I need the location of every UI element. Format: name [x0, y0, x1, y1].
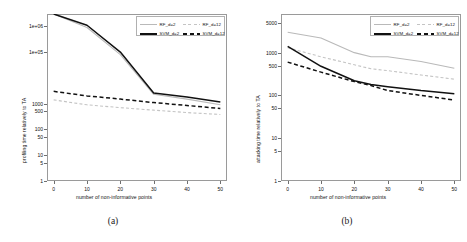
- panel-a-legend-entry-svm-d12: SVM_d=12: [183, 31, 225, 36]
- panel-b: attacking time relatively to TA number o…: [234, 0, 467, 242]
- panel-a-caption: (a): [93, 216, 133, 226]
- figure-two-panel-line-charts: profiling time relatively to TA number o…: [0, 0, 467, 242]
- panel-b-caption: (b): [327, 216, 367, 226]
- panel-b-series-layer: [234, 0, 467, 242]
- panel-b-legend-entry-rf-d2: RF_d=2: [374, 22, 410, 27]
- panel-a-legend: RF_d=2 RF_d=12 SVM_d=2 SVM_d=12: [136, 16, 225, 36]
- series-line-rf-d-12: [54, 100, 221, 115]
- series-line-svm-d-12: [54, 91, 221, 108]
- series-line-svm-d-2: [288, 46, 455, 93]
- panel-b-legend-entry-svm-d12: SVM_d=12: [417, 31, 459, 36]
- legend-label: SVM_d=2: [394, 31, 414, 36]
- panel-b-legend: RF_d=2 RF_d=12 SVM_d=2 SVM_d=12: [370, 16, 459, 36]
- series-line-rf-d-2: [288, 32, 455, 68]
- legend-label: SVM_d=12: [203, 31, 225, 36]
- legend-label: RF_d=2: [160, 22, 176, 27]
- panel-a-series-layer: [0, 0, 233, 242]
- panel-a-legend-entry-svm-d2: SVM_d=2: [140, 31, 179, 36]
- panel-b-legend-entry-svm-d2: SVM_d=2: [374, 31, 413, 36]
- legend-label: SVM_d=2: [160, 31, 180, 36]
- panel-a-legend-entry-rf-d12: RF_d=12: [183, 22, 221, 27]
- panel-b-legend-entry-rf-d12: RF_d=12: [417, 22, 455, 27]
- series-line-svm-d-12: [288, 62, 455, 100]
- legend-label: RF_d=12: [437, 22, 456, 27]
- legend-label: RF_d=2: [394, 22, 410, 27]
- panel-a-legend-entry-rf-d2: RF_d=2: [140, 22, 176, 27]
- legend-label: RF_d=12: [203, 22, 222, 27]
- panel-a: profiling time relatively to TA number o…: [0, 0, 233, 242]
- legend-label: SVM_d=12: [437, 31, 459, 36]
